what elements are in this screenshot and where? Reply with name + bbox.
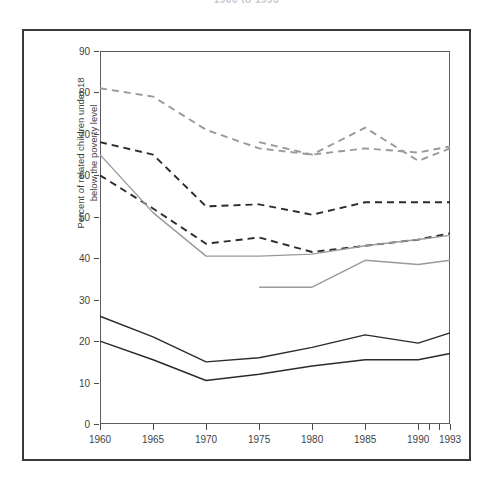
y-tick-label: 10 <box>60 377 90 388</box>
y-tick-label: 30 <box>60 294 90 305</box>
x-tick-label: 1980 <box>290 434 334 445</box>
series-line-gray-solid-lower <box>259 260 450 287</box>
y-tick-label: 70 <box>60 128 90 139</box>
y-tick-mark <box>94 51 99 52</box>
x-tick-mark <box>100 424 101 430</box>
y-tick-mark <box>94 92 99 93</box>
x-tick-mark <box>450 424 451 430</box>
x-tick-label: 1993 <box>428 434 472 445</box>
y-tick-label: 0 <box>60 419 90 430</box>
y-tick-label: 90 <box>60 46 90 57</box>
y-tick-label: 40 <box>60 253 90 264</box>
y-tick-mark <box>94 258 99 259</box>
x-tick-mark <box>153 424 154 430</box>
y-tick-label: 50 <box>60 211 90 222</box>
y-tick-label: 20 <box>60 336 90 347</box>
y-axis-title-line1: Percent of related children under 18 <box>75 77 86 228</box>
x-tick-mark <box>206 424 207 430</box>
line-series-group <box>100 51 450 424</box>
x-tick-mark-minor <box>429 424 430 430</box>
series-line-gray-dashed-upper <box>100 88 450 154</box>
y-tick-mark <box>94 341 99 342</box>
series-line-black-dashed-lower <box>100 175 450 252</box>
x-tick-mark <box>259 424 260 430</box>
x-tick-label: 1975 <box>237 434 281 445</box>
y-axis-title-line2: below the poverty level <box>88 105 99 202</box>
y-tick-mark <box>94 383 99 384</box>
x-tick-label: 1965 <box>131 434 175 445</box>
y-tick-label: 60 <box>60 170 90 181</box>
plot-area <box>100 51 450 424</box>
x-tick-mark-minor <box>439 424 440 430</box>
y-tick-mark <box>94 217 99 218</box>
series-line-black-solid-lower <box>100 341 450 380</box>
y-tick-mark <box>94 424 99 425</box>
x-tick-mark <box>418 424 419 430</box>
y-tick-mark <box>94 300 99 301</box>
x-tick-label: 1960 <box>78 434 122 445</box>
x-tick-mark <box>312 424 313 430</box>
series-line-black-solid-upper <box>100 316 450 362</box>
figure-container: 1960 to 1993 Percent of related children… <box>0 0 493 485</box>
x-tick-label: 1985 <box>343 434 387 445</box>
y-tick-mark <box>94 175 99 176</box>
y-tick-label: 80 <box>60 87 90 98</box>
series-line-gray-dashed-lower <box>259 128 450 161</box>
series-line-black-dashed-upper <box>100 142 450 215</box>
x-tick-mark <box>365 424 366 430</box>
x-tick-label: 1970 <box>184 434 228 445</box>
y-tick-mark <box>94 134 99 135</box>
